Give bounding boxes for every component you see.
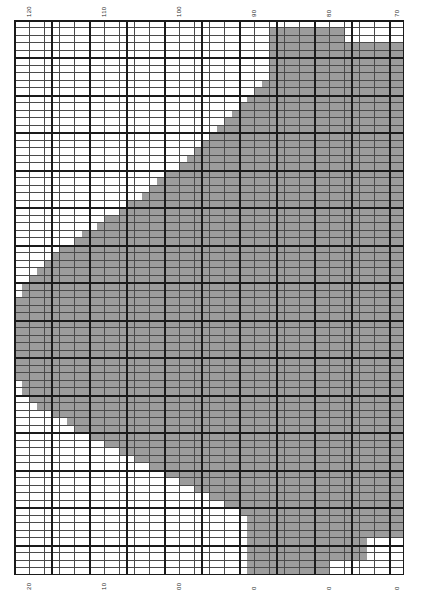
bottom-tick-label: 0 (326, 586, 332, 590)
region-cell-span (247, 545, 367, 553)
chart-page: 120110100908070 201000000 (0, 0, 424, 593)
region-cell-span (247, 538, 367, 546)
region-cell-span (254, 88, 404, 96)
region-cell-span (14, 365, 404, 373)
region-cell-span (239, 103, 404, 111)
bottom-tick-label: 0 (394, 586, 400, 590)
region-cell-span (29, 395, 404, 403)
region-cell-span (247, 560, 330, 568)
region-cell-span (179, 478, 404, 486)
region-cell-span (269, 35, 344, 43)
region-cell-span (247, 523, 405, 531)
region-cell-span (119, 448, 404, 456)
region-cell-span (44, 260, 404, 268)
region-cell-span (37, 403, 405, 411)
region-cell-span (127, 200, 405, 208)
region-cell-span (209, 133, 404, 141)
region-cell-span (217, 125, 405, 133)
region-cell-span (149, 185, 404, 193)
region-cell-span (194, 485, 404, 493)
region-cell-span (269, 43, 404, 51)
region-cell-span (59, 245, 404, 253)
region-cell-span (14, 320, 404, 328)
region-cell-span (202, 140, 405, 148)
region-cell-span (269, 65, 404, 73)
region-cell-span (52, 253, 405, 261)
region-cell-span (262, 80, 405, 88)
region-cell-span (14, 313, 404, 321)
region-cell-span (142, 193, 405, 201)
region-cell-span (22, 380, 405, 388)
top-tick-label: 70 (394, 10, 400, 17)
bottom-tick-label: 0 (251, 586, 257, 590)
region-fill-layer (14, 20, 404, 575)
region-cell-span (269, 28, 344, 36)
region-cell-span (247, 515, 405, 523)
region-cell-span (104, 215, 404, 223)
region-cell-span (164, 470, 404, 478)
region-cell-span (89, 433, 404, 441)
region-cell-span (247, 95, 405, 103)
region-cell-span (194, 148, 404, 156)
region-cell-span (179, 163, 404, 171)
region-cell-span (14, 350, 404, 358)
top-tick-label: 120 (26, 6, 32, 17)
region-cell-span (239, 508, 404, 516)
bottom-tick-label: 00 (176, 583, 182, 590)
region-cell-span (82, 230, 405, 238)
region-cell-span (14, 343, 404, 351)
region-cell-span (14, 373, 404, 381)
region-cell-span (232, 110, 405, 118)
top-tick-label: 110 (101, 7, 107, 17)
region-cell-span (14, 328, 404, 336)
top-tick-label: 90 (251, 10, 257, 17)
bottom-tick-label: 20 (26, 583, 32, 590)
top-tick-label: 100 (176, 6, 182, 17)
region-cell-span (14, 335, 404, 343)
region-cell-span (14, 298, 404, 306)
region-cell-span (187, 155, 405, 163)
region-cell-span (37, 268, 405, 276)
bottom-tick-label: 10 (101, 583, 107, 590)
region-cell-span (22, 388, 405, 396)
region-cell-span (164, 170, 404, 178)
region-cell-span (209, 493, 404, 501)
region-cell-span (97, 223, 405, 231)
region-cell-span (22, 290, 405, 298)
region-cell-span (149, 463, 404, 471)
region-cell-span (104, 440, 404, 448)
region-cell-span (52, 410, 405, 418)
region-cell-span (269, 58, 404, 66)
region-cell-span (22, 283, 405, 291)
top-tick-label: 80 (326, 10, 332, 17)
region-cell-span (14, 358, 404, 366)
region-cell-span (224, 118, 404, 126)
plot-area (14, 20, 404, 575)
region-cell-span (119, 208, 404, 216)
region-cell-span (269, 50, 404, 58)
region-cell-span (74, 238, 404, 246)
region-cell-span (247, 553, 367, 561)
region-cell-span (29, 275, 404, 283)
region-cell-span (157, 178, 405, 186)
region-cell-span (14, 305, 404, 313)
region-cell-span (247, 568, 330, 576)
region-cell-span (134, 455, 404, 463)
region-cell-span (67, 418, 405, 426)
region-cell-span (74, 425, 404, 433)
region-cell-span (247, 530, 405, 538)
region-cell-span (224, 500, 404, 508)
region-cell-span (269, 73, 404, 81)
